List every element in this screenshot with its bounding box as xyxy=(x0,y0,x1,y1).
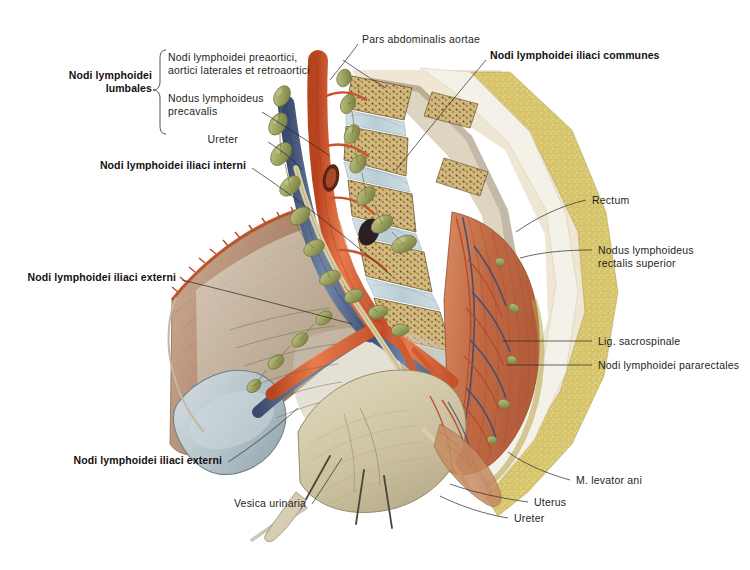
label-nodi-lymphoidei-iliaci-externi-upper: Nodi lymphoidei iliaci externi xyxy=(0,271,176,284)
label-lig-sacrospinale: Lig. sacrospinale xyxy=(598,335,680,348)
anatomical-plate: Nodi lymphoidei lumbales Nodi lymphoidei… xyxy=(0,0,750,570)
label-nodi-lymphoidei-pararectales: Nodi lymphoidei pararectales xyxy=(598,359,739,372)
label-pars-abdominalis-aortae: Pars abdominalis aortae xyxy=(362,33,480,46)
label-uterus: Uterus xyxy=(534,496,566,509)
label-nodi-lymphoidei-preaortici: Nodi lymphoidei preaortici, aortici late… xyxy=(168,51,310,76)
label-ureter-bottom: Ureter xyxy=(514,512,544,525)
label-nodi-lymphoidei-iliaci-communes: Nodi lymphoidei iliaci communes xyxy=(490,49,660,62)
label-nodi-lymphoidei-iliaci-interni: Nodi lymphoidei iliaci interni xyxy=(38,159,246,172)
label-nodi-lymphoidei-iliaci-externi-lower: Nodi lymphoidei iliaci externi xyxy=(14,454,222,467)
label-vesica-urinaria: Vesica urinaria xyxy=(168,497,306,510)
label-m-levator-ani: M. levator ani xyxy=(576,474,642,487)
label-ureter-top: Ureter xyxy=(128,133,238,146)
label-nodi-lymphoidei-lumbales: Nodi lymphoidei lumbales xyxy=(14,69,152,94)
label-nodus-lymphoideus-rectalis-superior: Nodus lymphoideus rectalis superior xyxy=(598,244,694,269)
label-rectum: Rectum xyxy=(592,194,629,207)
label-nodus-lymphoideus-precavalis: Nodus lymphoideus precavalis xyxy=(168,92,264,117)
